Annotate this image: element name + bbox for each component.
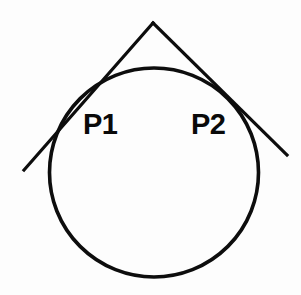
label-p1: P1 [83, 110, 117, 139]
left-tangent-line [24, 23, 153, 170]
circle [50, 68, 259, 277]
label-p2: P2 [191, 110, 225, 139]
figure-canvas: P1 P2 [0, 0, 301, 295]
geometry-drawing [0, 0, 301, 295]
